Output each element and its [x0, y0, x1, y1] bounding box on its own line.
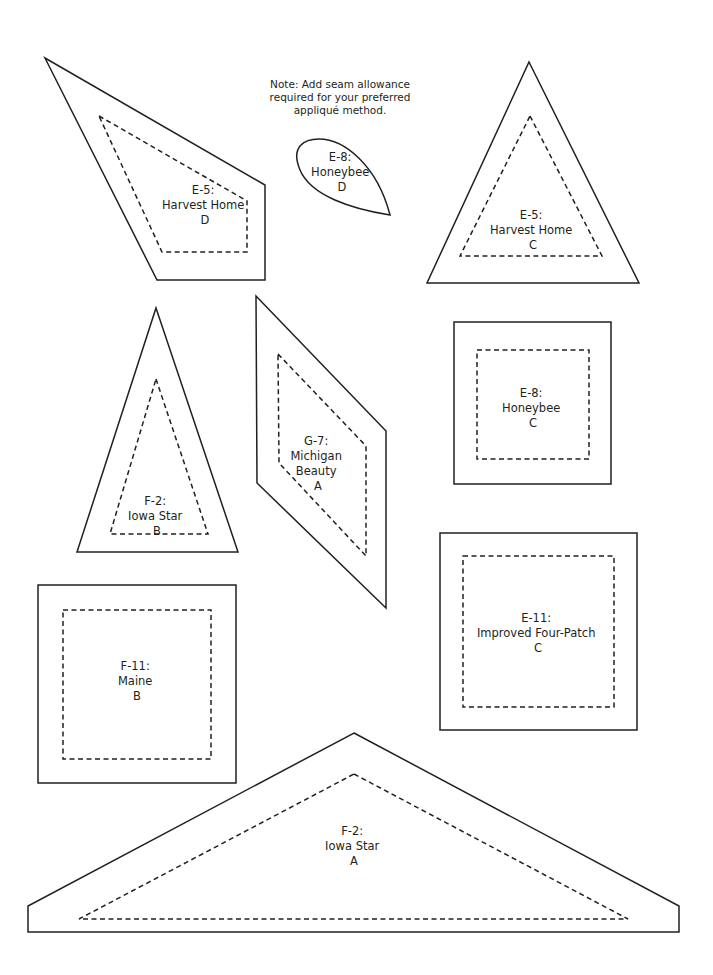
piece-letter-iowa-star-a: A [350, 854, 358, 868]
piece-code-improved-four-patch-c: E-11: [521, 611, 551, 625]
template-piece-iowa-star-b[interactable]: F-2: Iowa Star B [77, 308, 238, 552]
piece-letter-improved-four-patch-c: C [534, 641, 542, 655]
cut-line-harvest-home-d [45, 58, 265, 280]
piece-code-harvest-home-c: E-5: [520, 208, 543, 222]
piece-code-michigan-beauty-a: G-7: [304, 434, 328, 448]
piece-name-iowa-star-a: Iowa Star [325, 839, 379, 853]
piece-code-harvest-home-d: E-5: [192, 183, 215, 197]
note-line-3: appliqué method. [294, 104, 387, 116]
template-pattern-canvas: Note: Add seam allowance required for yo… [0, 0, 713, 975]
template-piece-improved-four-patch-c[interactable]: E-11: Improved Four-Patch C [440, 533, 637, 730]
piece-code-honeybee-d: E-8: [329, 150, 352, 164]
piece-code-iowa-star-a: F-2: [341, 824, 363, 838]
seam-allowance-note: Note: Add seam allowance required for yo… [270, 78, 411, 116]
piece-name-michigan-beauty-a-line2: Beauty [296, 464, 337, 478]
piece-name-honeybee-c: Honeybee [502, 401, 560, 415]
piece-letter-iowa-star-b: B [153, 524, 161, 538]
piece-code-iowa-star-b: F-2: [144, 494, 166, 508]
template-piece-maine-b[interactable]: F-11: Maine B [38, 585, 236, 783]
template-piece-honeybee-d[interactable]: E-8: Honeybee D [297, 139, 390, 215]
piece-letter-michigan-beauty-a: A [314, 479, 322, 493]
piece-code-honeybee-c: E-8: [520, 386, 543, 400]
piece-letter-harvest-home-d: D [201, 213, 210, 227]
piece-name-harvest-home-d: Harvest Home [162, 198, 244, 212]
template-piece-honeybee-c[interactable]: E-8: Honeybee C [454, 322, 611, 484]
piece-letter-honeybee-d: D [338, 180, 347, 194]
template-piece-michigan-beauty-a[interactable]: G-7: Michigan Beauty A [256, 296, 386, 608]
piece-name-maine-b: Maine [118, 674, 153, 688]
piece-name-harvest-home-c: Harvest Home [490, 223, 572, 237]
note-line-1: Note: Add seam allowance [270, 78, 410, 90]
pattern-sheet-page: Note: Add seam allowance required for yo… [0, 0, 713, 975]
piece-letter-honeybee-c: C [529, 416, 537, 430]
piece-name-honeybee-d: Honeybee [311, 165, 369, 179]
piece-code-maine-b: F-11: [121, 659, 150, 673]
template-piece-harvest-home-d[interactable]: E-5: Harvest Home D [45, 58, 265, 280]
piece-letter-harvest-home-c: C [529, 238, 537, 252]
piece-name-iowa-star-b: Iowa Star [128, 509, 182, 523]
template-piece-harvest-home-c[interactable]: E-5: Harvest Home C [427, 62, 639, 283]
piece-name-improved-four-patch-c: Improved Four-Patch [477, 626, 596, 640]
note-line-2: required for your preferred [270, 91, 411, 103]
piece-letter-maine-b: B [133, 689, 141, 703]
piece-name-michigan-beauty-a-line1: Michigan [290, 449, 342, 463]
